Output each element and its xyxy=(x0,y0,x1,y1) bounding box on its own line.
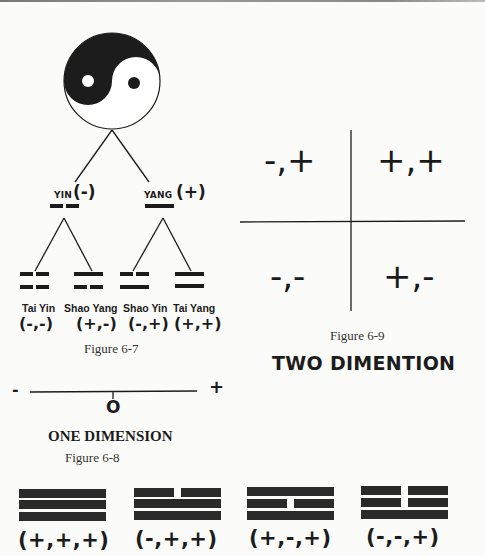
yang-sign: (+) xyxy=(176,182,206,202)
shao-yang-tuple: (+,-) xyxy=(76,314,117,333)
quadrant-top-left: -,+ xyxy=(264,140,316,180)
shao-yin-tuple: (-,+) xyxy=(128,314,169,333)
yang-label: YANG xyxy=(144,190,172,200)
tai-yin-label: Tai Yin xyxy=(22,302,55,314)
trigram-qian xyxy=(19,489,106,521)
yin-sign: (-) xyxy=(73,182,96,202)
trigram-dui xyxy=(134,488,221,520)
tai-yang-label: Tai Yang xyxy=(173,302,215,314)
quadrant-top-right: +,+ xyxy=(377,140,445,180)
negative-end-label: - xyxy=(12,380,19,399)
origin-label: O xyxy=(106,397,120,417)
tai-yang-tuple: (+,+) xyxy=(174,314,222,333)
quadrant-bottom-left: -,- xyxy=(270,256,305,296)
branch-line xyxy=(35,218,64,271)
one-dimension-title: ONE DIMENSION xyxy=(48,428,173,445)
yin-yang-icon xyxy=(64,33,160,129)
branch-line xyxy=(112,130,149,182)
figure-6-8-caption: Figure 6-8 xyxy=(65,450,120,466)
yin-label: YIN xyxy=(54,190,72,200)
shao-yin-digram xyxy=(120,272,149,289)
branch-line xyxy=(64,218,92,271)
positive-end-label: + xyxy=(209,376,224,397)
number-line xyxy=(30,391,197,392)
trigram-li xyxy=(247,487,334,520)
trigram-tuple: (-,+,+) xyxy=(135,527,218,551)
quadrant-bottom-right: +,- xyxy=(383,256,435,296)
trigram-tuple: (-,-,+) xyxy=(366,525,440,549)
branch-line xyxy=(133,218,163,271)
figure-6-9-caption: Figure 6-9 xyxy=(330,328,385,344)
branch-line xyxy=(75,130,112,182)
tai-yang-digram xyxy=(175,272,204,288)
figure-6-7-caption: Figure 6-7 xyxy=(84,341,139,357)
trigram-zhen xyxy=(361,486,448,519)
tai-yin-tuple: (-,-) xyxy=(19,314,53,333)
yin-line-broken xyxy=(50,204,79,208)
trigram-tuple: (+,-,+) xyxy=(249,526,332,550)
tai-yin-digram xyxy=(20,272,49,289)
shao-yang-digram xyxy=(74,272,103,289)
shao-yin-label: Shao Yin xyxy=(123,302,167,314)
branch-line xyxy=(163,218,191,271)
trigram-tuple: (+,+,+) xyxy=(18,528,109,552)
horizontal-axis xyxy=(240,221,465,222)
two-dimension-title: TWO DIMENTION xyxy=(272,352,455,374)
shao-yang-label: Shao Yang xyxy=(64,302,118,314)
yang-line-solid xyxy=(145,204,174,208)
